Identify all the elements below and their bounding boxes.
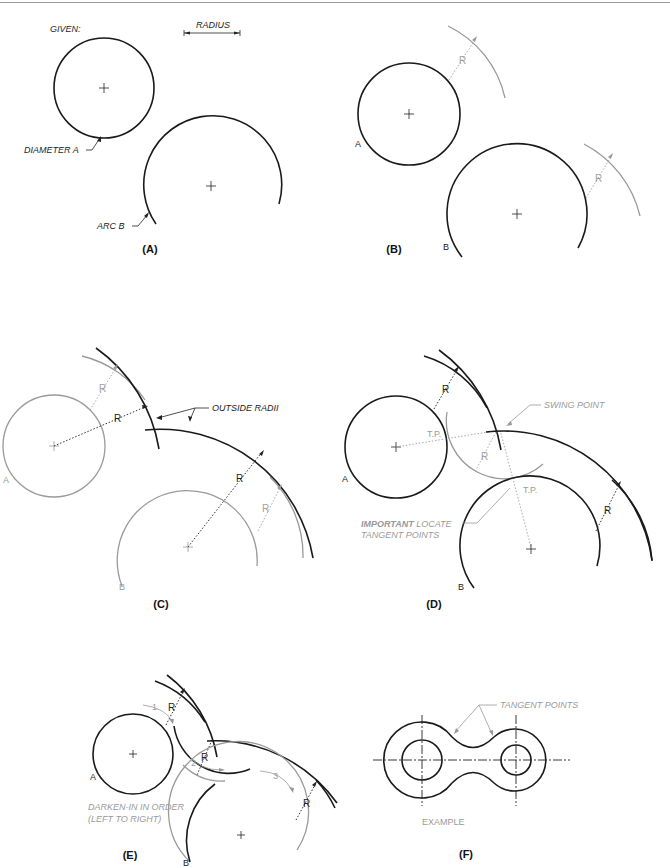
center-mark-a bbox=[99, 83, 109, 93]
r-label-2: R bbox=[201, 752, 208, 763]
step-3-label: 3 bbox=[273, 771, 278, 781]
panel-e: A R 1 R 2 B 3 R DARKEN-IN IN ORDER (LEFT… bbox=[88, 675, 337, 868]
arc-b-label: B bbox=[119, 582, 125, 592]
arc-b bbox=[117, 491, 257, 586]
caption-d: (D) bbox=[426, 598, 442, 610]
radius-line-a2 bbox=[54, 407, 145, 446]
panel-f: TANGENT POINTS EXAMPLE (F) bbox=[373, 700, 578, 860]
instruction-line2: (LEFT TO RIGHT) bbox=[88, 814, 161, 824]
swing-point-leader bbox=[508, 405, 541, 424]
important-label-line2: TANGENT POINTS bbox=[361, 530, 439, 540]
radius-label: RADIUS bbox=[196, 20, 230, 30]
radius-dimension-arrow bbox=[184, 30, 240, 36]
example-label: EXAMPLE bbox=[422, 817, 465, 827]
center-mark-a bbox=[129, 750, 137, 758]
tangent-points-label: TANGENT POINTS bbox=[500, 700, 578, 710]
circle-a-label: A bbox=[3, 475, 9, 485]
r-label-2: R bbox=[481, 451, 488, 462]
arc-b-label: ARC B bbox=[96, 221, 125, 231]
r-label-4: R bbox=[262, 503, 269, 514]
instruction-line1: DARKEN-IN IN ORDER bbox=[88, 802, 185, 812]
top-tangent-arc bbox=[452, 737, 494, 748]
r-label-1: R bbox=[459, 55, 466, 66]
tangent-arc bbox=[446, 412, 543, 479]
r-label-2: R bbox=[595, 173, 602, 184]
center-mark-b bbox=[237, 831, 245, 839]
arc-b-label: B bbox=[183, 858, 189, 868]
panel-a: GIVEN: RADIUS DIAMETER A ARC B (A) bbox=[24, 20, 282, 255]
center-mark-b bbox=[512, 209, 522, 219]
caption-c: (C) bbox=[153, 598, 169, 610]
panel-b: A R B R (B) bbox=[355, 26, 640, 257]
diameter-a-leader bbox=[86, 138, 100, 150]
r-label-3: R bbox=[303, 798, 310, 809]
r-label-3: R bbox=[236, 473, 243, 484]
bottom-tangent-arc bbox=[452, 773, 494, 784]
construction-arc-b bbox=[316, 780, 335, 808]
r-label-1: R bbox=[168, 702, 175, 713]
construction-arc-b bbox=[270, 477, 303, 558]
tp-label-1: T.P. bbox=[427, 429, 441, 439]
panel-d: A R R T.P. T.P. SWING POINT B IMPORTANT … bbox=[342, 350, 652, 610]
arc-b bbox=[144, 116, 282, 224]
important-rest: LOCATE bbox=[414, 519, 453, 529]
tangent-arc-construction-figure: GIVEN: RADIUS DIAMETER A ARC B (A) A bbox=[0, 0, 670, 868]
r-label-1: R bbox=[99, 383, 106, 394]
circle-a-label: A bbox=[342, 474, 348, 484]
step-1-label: 1 bbox=[152, 702, 157, 712]
arc-b bbox=[447, 144, 587, 257]
circle-a-label: A bbox=[90, 772, 96, 782]
tp-label-2: T.P. bbox=[523, 485, 537, 495]
arc-b-label: B bbox=[443, 242, 449, 252]
outside-arc-a bbox=[167, 675, 217, 757]
caption-b: (B) bbox=[386, 243, 402, 255]
given-label: GIVEN: bbox=[50, 24, 81, 34]
important-label-line1: IMPORTANT LOCATE bbox=[361, 519, 453, 529]
outside-radii-leader bbox=[190, 408, 209, 420]
outside-arc-a bbox=[96, 348, 159, 449]
important-bold: IMPORTANT bbox=[361, 519, 415, 529]
outside-radii-label: OUTSIDE RADII bbox=[212, 403, 279, 413]
center-mark-b bbox=[206, 181, 216, 191]
center-mark-a bbox=[404, 109, 414, 119]
important-leader bbox=[462, 488, 510, 523]
caption-e: (E) bbox=[123, 849, 138, 861]
panel-c: A R R OUTSIDE RADII B R R (C) bbox=[3, 348, 313, 610]
r-label-3: R bbox=[604, 505, 611, 516]
arc-b-dark bbox=[187, 784, 215, 862]
circle-a-label: A bbox=[355, 139, 361, 149]
caption-a: (A) bbox=[142, 243, 158, 255]
r-label-2: R bbox=[114, 413, 121, 424]
r-label-1: R bbox=[442, 384, 449, 395]
construction-arc-b bbox=[612, 480, 652, 561]
swing-point-label: SWING POINT bbox=[544, 400, 606, 410]
center-mark-b bbox=[526, 544, 536, 554]
arc-b-label: B bbox=[458, 582, 464, 592]
diameter-a-label: DIAMETER A bbox=[24, 145, 79, 155]
caption-f: (F) bbox=[459, 848, 473, 860]
